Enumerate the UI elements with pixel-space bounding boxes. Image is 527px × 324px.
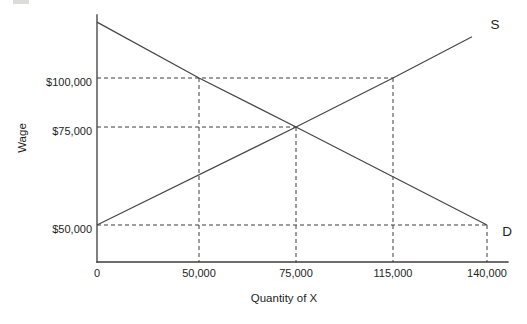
- demand-curve: [97, 22, 487, 225]
- scan-artifact: [13, 0, 29, 4]
- x-tick-label-0: 0: [94, 267, 100, 279]
- y-tick-label-50000: $50,000: [52, 223, 92, 235]
- x-axis-title: Quantity of X: [251, 292, 318, 304]
- y-tick-label-100000: $100,000: [46, 76, 92, 88]
- chart-layers: 050,00075,000115,000140,000$50,000$75,00…: [46, 15, 508, 279]
- y-axis-title: Wage: [16, 123, 28, 153]
- x-tick-label-50000: 50,000: [182, 267, 216, 279]
- x-tick-label-75000: 75,000: [279, 267, 313, 279]
- x-tick-label-140000: 140,000: [467, 267, 507, 279]
- supply-curve: [97, 37, 472, 225]
- y-tick-label-75000: $75,000: [52, 125, 92, 137]
- supply-curve-label: S: [490, 17, 499, 32]
- x-tick-label-115000: 115,000: [374, 267, 413, 279]
- chart-canvas: 050,00075,000115,000140,000$50,000$75,00…: [0, 0, 527, 324]
- supply-demand-figure: 050,00075,000115,000140,000$50,000$75,00…: [0, 0, 527, 324]
- demand-curve-label: D: [502, 224, 512, 239]
